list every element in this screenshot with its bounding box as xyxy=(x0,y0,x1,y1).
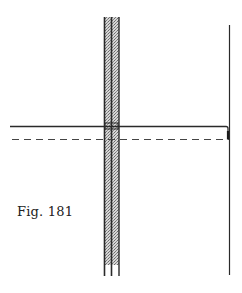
figure-caption: Fig. 181 xyxy=(17,204,73,219)
figure-181: Fig. 181 xyxy=(0,0,242,293)
diagram-canvas xyxy=(0,0,242,293)
vertical-strip xyxy=(104,17,119,276)
